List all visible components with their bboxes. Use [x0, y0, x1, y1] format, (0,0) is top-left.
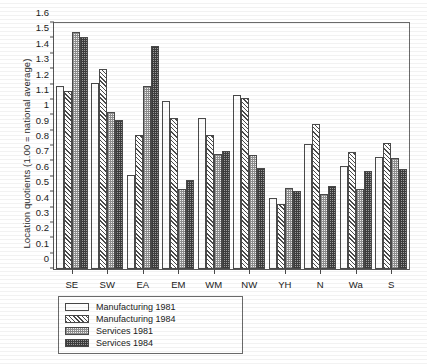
bar [340, 166, 348, 269]
y-tick-label: 1 [44, 99, 54, 110]
bar-group [232, 23, 268, 269]
legend-label: Manufacturing 1984 [96, 314, 176, 324]
bar [399, 169, 407, 269]
bar [178, 189, 186, 269]
y-tick-label: 1.4 [36, 37, 54, 48]
legend-item: Services 1984 [65, 337, 236, 348]
bar-groups [54, 23, 409, 269]
x-tick-mark [107, 269, 108, 274]
x-tick-label: N [317, 279, 324, 290]
bar [277, 204, 285, 269]
chart-legend: Manufacturing 1981Manufacturing 1984Serv… [58, 296, 243, 354]
legend-label: Services 1981 [96, 326, 153, 336]
bar [375, 157, 383, 269]
x-tick-mark [214, 269, 215, 274]
x-tick-mark [178, 269, 179, 274]
bar [320, 194, 328, 269]
bar [115, 120, 123, 269]
legend-swatch [65, 339, 89, 347]
y-tick-label: 1.1 [36, 83, 54, 94]
bar [143, 86, 151, 269]
y-tick-label: 1.6 [36, 7, 54, 18]
y-tick-label: 1.2 [36, 68, 54, 79]
bar [304, 144, 312, 269]
x-tick-label: EM [171, 279, 185, 290]
bar [206, 135, 214, 269]
x-tick-label: S [388, 279, 394, 290]
bar [151, 46, 159, 269]
y-tick-label: 1.3 [36, 53, 54, 64]
legend-swatch [65, 315, 89, 323]
legend-item: Manufacturing 1981 [65, 301, 236, 312]
bar-group [338, 23, 374, 269]
bar [348, 152, 356, 269]
bar [170, 118, 178, 269]
x-tick-label: SW [100, 279, 115, 290]
bar [257, 168, 265, 269]
y-tick-label: 0.8 [36, 130, 54, 141]
y-tick-label: 1.5 [36, 22, 54, 33]
x-tick-mark [72, 269, 73, 274]
bar [249, 155, 257, 269]
bar-group [267, 23, 303, 269]
x-tick-label: NW [241, 279, 257, 290]
y-tick-label: 0.1 [36, 237, 54, 248]
bar [198, 118, 206, 269]
y-tick-label: 0 [44, 253, 54, 264]
x-tick-label: YH [278, 279, 291, 290]
y-tick-label: 0.3 [36, 206, 54, 217]
legend-label: Services 1984 [96, 338, 153, 348]
bar-group [196, 23, 232, 269]
legend-item: Manufacturing 1984 [65, 313, 236, 324]
bar [356, 189, 364, 269]
bar [214, 154, 222, 269]
bar-chart: Location quotients (1.00 = national aver… [0, 0, 427, 364]
bar [127, 175, 135, 269]
bar [269, 198, 277, 269]
bar [391, 158, 399, 269]
bar [383, 143, 391, 269]
x-tick-label: SE [65, 279, 78, 290]
legend-label: Manufacturing 1981 [96, 302, 176, 312]
bar-group [303, 23, 339, 269]
bar [312, 124, 320, 269]
x-tick-label: Wa [349, 279, 363, 290]
y-tick-label: 0.7 [36, 145, 54, 156]
legend-swatch [65, 327, 89, 335]
x-tick-mark [391, 269, 392, 274]
bar [241, 98, 249, 269]
y-tick-label: 0.6 [36, 160, 54, 171]
bar-group [90, 23, 126, 269]
bar [99, 69, 107, 269]
x-tick-mark [249, 269, 250, 274]
bar [328, 186, 336, 269]
x-tick-mark [143, 269, 144, 274]
bar-group [54, 23, 90, 269]
bar [80, 37, 88, 269]
bar [285, 188, 293, 269]
bar [233, 95, 241, 269]
bar-group [161, 23, 197, 269]
y-tick-label: 0.9 [36, 114, 54, 125]
legend-swatch [65, 303, 89, 311]
x-tick-mark [320, 269, 321, 274]
legend-item: Services 1981 [65, 325, 236, 336]
bar [56, 86, 64, 269]
x-tick-mark [285, 269, 286, 274]
y-tick-label: 0.2 [36, 222, 54, 233]
bar [364, 171, 372, 269]
y-axis-label: Location quotients (1.00 = national aver… [21, 24, 32, 284]
bar [107, 112, 115, 269]
bar-group [125, 23, 161, 269]
bar [64, 91, 72, 269]
y-tick-label: 0.5 [36, 176, 54, 187]
bar [91, 83, 99, 269]
bar [222, 151, 230, 269]
x-tick-label: WM [205, 279, 222, 290]
bar [186, 180, 194, 269]
bar [162, 101, 170, 269]
y-tick-label: 0.4 [36, 191, 54, 202]
bar [293, 191, 301, 269]
x-tick-label: EA [136, 279, 149, 290]
bar-group [374, 23, 410, 269]
